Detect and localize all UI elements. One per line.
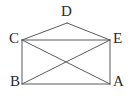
edge-D-E bbox=[67, 23, 110, 40]
edge-C-D bbox=[22, 23, 67, 40]
vertex-label-D: D bbox=[61, 4, 72, 19]
vertex-label-B: B bbox=[10, 74, 20, 89]
geometry-figure: D C E B A bbox=[0, 0, 136, 96]
vertex-label-C: C bbox=[9, 31, 19, 46]
vertex-label-A: A bbox=[113, 74, 124, 89]
vertex-label-E: E bbox=[113, 31, 122, 46]
